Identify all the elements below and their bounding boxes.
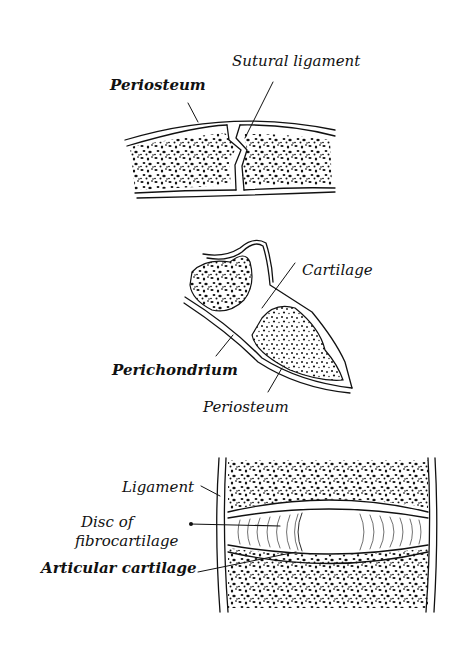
label-cartilage: Cartilage bbox=[302, 261, 373, 279]
disc-rings bbox=[238, 514, 421, 550]
label-ligament: Ligament bbox=[121, 478, 195, 496]
perichondrium-leader bbox=[216, 335, 233, 356]
synchondrosis-lower-bone bbox=[252, 306, 343, 380]
label-disc-line2: fibrocartilage bbox=[74, 532, 178, 550]
disc-leader-dot bbox=[189, 522, 193, 526]
symphysis-upper-bone bbox=[228, 460, 428, 510]
label-perichondrium: Perichondrium bbox=[111, 361, 238, 379]
label-articular-cartilage: Articular cartilage bbox=[39, 559, 197, 577]
cartilage-leader bbox=[262, 263, 295, 308]
synchondrosis-figure: Cartilage Perichondrium Periosteum bbox=[111, 240, 373, 416]
label-periosteum-1: Periosteum bbox=[109, 76, 206, 94]
anatomy-diagram: Periosteum Sutural ligament Cartilage Pe… bbox=[0, 0, 454, 649]
label-disc-line1: Disc of bbox=[80, 513, 136, 531]
periosteum-leader bbox=[188, 103, 198, 122]
suture-left-bone bbox=[130, 133, 236, 190]
symphysis-lower-bone bbox=[228, 548, 428, 608]
synchondrosis-upper-bone bbox=[190, 256, 252, 311]
suture-figure: Periosteum Sutural ligament bbox=[109, 52, 361, 198]
symphysis-figure: Ligament Disc of fibrocartilage Articula… bbox=[39, 458, 437, 612]
label-periosteum-2: Periosteum bbox=[202, 398, 289, 416]
sutural-ligament-leader bbox=[245, 82, 273, 138]
label-sutural-ligament: Sutural ligament bbox=[232, 52, 361, 70]
suture-right-bone bbox=[242, 134, 332, 186]
disc-leader bbox=[190, 524, 280, 526]
